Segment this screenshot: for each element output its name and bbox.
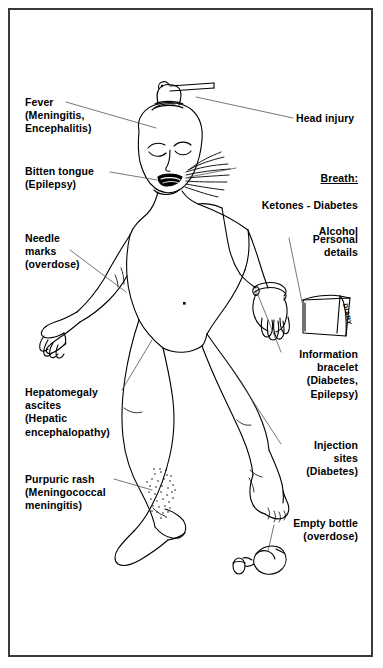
callout-bitten-tongue — [110, 172, 157, 180]
label-bitten-tongue: Bitten tongue (Epilepsy) — [25, 165, 94, 191]
callout-purpuric-rash — [114, 479, 152, 490]
right-leg — [202, 334, 289, 522]
left-hand — [40, 312, 80, 358]
bottle-cap — [233, 558, 245, 574]
diagram-page: DIARY — [0, 0, 383, 668]
label-personal-details: Personal details — [283, 233, 358, 259]
diary-book — [303, 295, 350, 336]
neck-and-shoulders — [130, 191, 248, 235]
label-fever: Fever (Meningitis, Encephalitis) — [25, 96, 92, 136]
label-breath-heading: Breath: — [321, 172, 358, 184]
label-head-injury: Head injury — [296, 112, 354, 125]
callout-head-injury — [196, 97, 293, 118]
label-breath: Breath: Ketones - Diabetes Alcohol — [238, 159, 358, 238]
label-purpuric-rash: Purpuric rash (Meningococcal meningitis) — [25, 473, 106, 513]
empty-bottle — [243, 546, 286, 574]
left-leg — [115, 320, 186, 565]
torso-outline — [127, 230, 249, 352]
callout-bracelet — [256, 290, 281, 352]
diary-label: DIARY — [342, 303, 353, 326]
label-needle-marks: Needle marks (overdose) — [25, 232, 80, 272]
right-hand — [253, 294, 289, 340]
label-injection-sites: Injection sites (Diabetes) — [283, 439, 358, 479]
wrist-bracelet — [253, 283, 286, 300]
callout-injection-sites — [226, 360, 281, 444]
label-hepatomegaly: Hepatomegaly ascites (Hepatic encephalop… — [25, 386, 110, 439]
label-information-bracelet: Information bracelet (Diabetes, Epilepsy… — [283, 348, 358, 401]
left-arm — [77, 235, 130, 322]
navel — [183, 302, 186, 305]
breath-lines — [185, 152, 230, 197]
label-breath-ketones: Ketones - Diabetes — [262, 199, 358, 211]
label-empty-bottle: Empty bottle (overdose) — [270, 517, 358, 543]
callout-hepatomegaly — [122, 340, 152, 390]
